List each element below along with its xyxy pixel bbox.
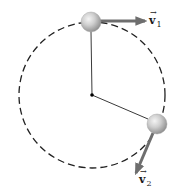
vector-label-v1: → v1	[149, 15, 162, 29]
string-to-ball-1	[91, 32, 92, 95]
center-pivot	[90, 93, 94, 97]
vector-arrow-accent: →	[150, 9, 157, 17]
vector-label-v2: → v2	[139, 174, 152, 188]
vector-subscript: 1	[156, 20, 161, 29]
vector-subscript: 2	[146, 179, 151, 188]
ball-1	[81, 12, 101, 32]
vector-arrow-accent: →	[140, 168, 147, 176]
string-to-ball-2	[92, 95, 148, 119]
ball-2	[147, 114, 167, 134]
